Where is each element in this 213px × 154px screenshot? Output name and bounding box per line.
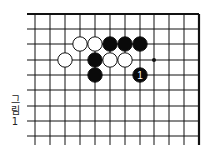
white-stone <box>88 37 102 51</box>
caption-char: 그 <box>8 94 22 105</box>
caption-char: 림 <box>8 105 22 116</box>
board-marks <box>152 58 156 62</box>
board-grid <box>27 14 199 145</box>
white-stone <box>103 53 117 67</box>
white-stone <box>73 37 87 51</box>
go-board: 1 <box>0 0 213 154</box>
black-stone <box>133 37 147 51</box>
white-stone <box>58 53 72 67</box>
black-stone <box>118 37 132 51</box>
black-stone <box>103 37 117 51</box>
caption-char: 1 <box>8 116 22 127</box>
black-stone <box>88 53 102 67</box>
figure-caption: 그 림 1 <box>8 94 22 127</box>
stone-move-number: 1 <box>137 70 143 81</box>
white-stone <box>118 53 132 67</box>
black-stone <box>88 68 102 82</box>
black-stone: 1 <box>133 68 147 82</box>
point-mark-dot <box>152 58 156 62</box>
